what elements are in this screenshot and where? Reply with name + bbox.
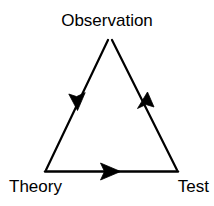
node-label-test: Test <box>0 177 209 196</box>
arrowhead-observation-to-theory-icon <box>69 93 85 111</box>
node-label-observation: Observation <box>0 11 214 30</box>
triangle-cycle-graphic <box>0 0 214 206</box>
cycle-diagram: Observation Theory Test <box>0 0 214 206</box>
